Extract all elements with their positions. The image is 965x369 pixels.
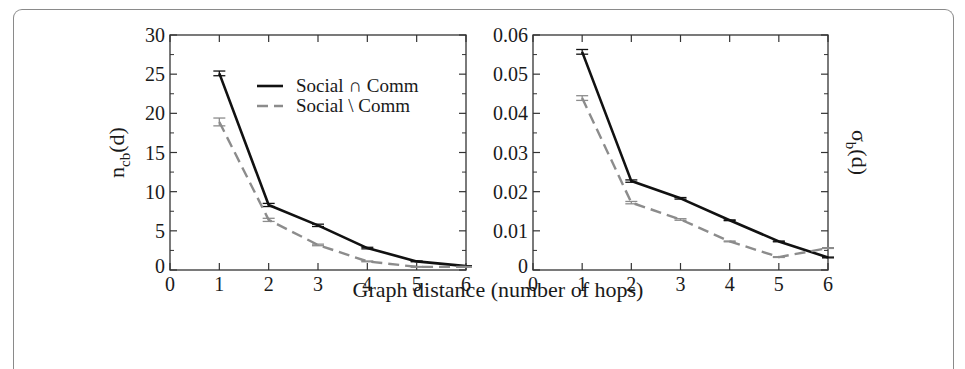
left-plot-ncb: 0123456051015202530ncb(d)	[104, 24, 472, 295]
x-tick-label: 5	[774, 273, 784, 295]
y-tick-label: 20	[145, 102, 165, 124]
y-axis-title: σb(d)	[843, 130, 872, 175]
series-line-social-minus-comm	[219, 122, 466, 267]
x-tick-label: 6	[823, 273, 833, 295]
y-tick-label: 0.03	[493, 142, 528, 164]
series-line-social-minus-comm	[582, 98, 828, 257]
x-tick-label: 3	[676, 273, 686, 295]
plot-area-frame	[170, 35, 466, 270]
series-line-social-and-comm	[582, 52, 828, 258]
y-tick-label: 30	[145, 24, 165, 46]
y-tick-label: 5	[155, 220, 165, 242]
y-tick-label: 0.05	[493, 63, 528, 85]
legend-label: Social \ Comm	[296, 95, 410, 116]
x-axis-title: Graph distance (number of hops)	[353, 277, 644, 302]
y-tick-label: 0.02	[493, 181, 528, 203]
legend-label: Social ∩ Comm	[296, 75, 419, 96]
y-tick-label: 15	[145, 142, 165, 164]
x-tick-label: 1	[214, 273, 224, 295]
x-tick-label: 4	[725, 273, 735, 295]
plot-area-frame	[533, 35, 828, 270]
x-tick-label: 0	[165, 273, 175, 295]
y-tick-label: 0.06	[493, 24, 528, 46]
y-tick-label: 0	[155, 255, 165, 277]
y-tick-label: 0.04	[493, 102, 528, 124]
y-tick-label: 25	[145, 63, 165, 85]
y-tick-label: 0	[518, 255, 528, 277]
x-tick-label: 3	[313, 273, 323, 295]
x-tick-label: 2	[264, 273, 274, 295]
right-plot-sigma-b: 012345600.010.020.030.040.050.06σb(d)	[493, 24, 872, 295]
y-tick-label: 10	[145, 181, 165, 203]
legend: Social ∩ CommSocial \ Comm	[257, 75, 419, 116]
y-tick-label: 0.01	[493, 220, 528, 242]
y-axis-title: ncb(d)	[104, 127, 133, 178]
